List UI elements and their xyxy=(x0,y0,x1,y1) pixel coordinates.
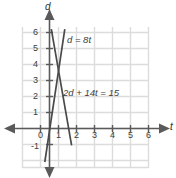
y-tick-label-1: 1 xyxy=(33,108,38,117)
x-tick-label-1: 1 xyxy=(56,131,61,140)
x-tick-label-5: 5 xyxy=(128,131,133,140)
x-tick-label-2: 2 xyxy=(74,131,79,140)
y-tick-label-neg1: -1 xyxy=(31,142,39,151)
x-tick-label-3: 3 xyxy=(92,131,97,140)
x-tick-label-4: 4 xyxy=(110,131,115,140)
x-tick-label-6: 6 xyxy=(146,131,151,140)
graph-figure: d t 6 5 4 3 2 1 0 -1 1 2 3 4 5 6 d = 8t … xyxy=(0,0,176,178)
y-tick-label-6: 6 xyxy=(33,28,38,37)
equation-label-2d-14t-15: 2d + 14t = 15 xyxy=(63,88,119,98)
y-tick-label-3: 3 xyxy=(33,76,38,85)
y-tick-label-4: 4 xyxy=(33,60,38,69)
y-tick-label-5: 5 xyxy=(33,44,38,53)
y-tick-label-2: 2 xyxy=(33,92,38,101)
equation-label-d-8t: d = 8t xyxy=(67,35,91,45)
y-axis-title: d xyxy=(45,2,51,12)
x-axis-title: t xyxy=(170,122,173,132)
origin-label: 0 xyxy=(38,131,43,140)
